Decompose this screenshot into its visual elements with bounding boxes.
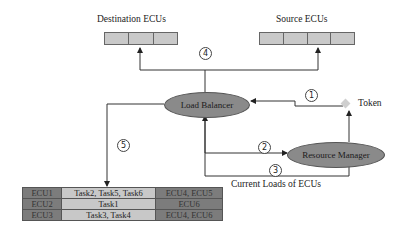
- table-row: ECU3 Task3, Task4 ECU4, ECU6: [23, 210, 223, 221]
- ecu-cell: ECU1: [23, 188, 62, 199]
- table-row: ECU2 Task1 ECU6: [23, 199, 223, 210]
- target-ecus-cell: ECU4, ECU6: [156, 210, 223, 221]
- queue-slot: [154, 33, 177, 44]
- queue-slot: [284, 33, 308, 44]
- token-label: Token: [358, 98, 382, 108]
- ecu-cell: ECU2: [23, 199, 62, 210]
- ecu-cell: ECU3: [23, 210, 62, 221]
- load-balancer-node: Load Balancer: [164, 92, 250, 118]
- step-2-badge: 2: [258, 141, 271, 154]
- queue-slot: [105, 33, 129, 44]
- destination-ecus-queue: [104, 32, 178, 45]
- target-ecus-cell: ECU4, ECU5: [156, 188, 223, 199]
- queue-slot: [331, 33, 354, 44]
- step-1-badge: 1: [305, 89, 318, 102]
- queue-slot: [308, 33, 332, 44]
- step-4-badge: 4: [199, 47, 212, 60]
- queue-slot: [129, 33, 153, 44]
- tasks-cell: Task3, Task4: [62, 210, 156, 221]
- queue-slot: [260, 33, 284, 44]
- load-balancer-label: Load Balancer: [181, 100, 234, 110]
- destination-ecus-label: Destination ECUs: [97, 14, 166, 24]
- tasks-cell: Task2, Task5, Task6: [62, 188, 156, 199]
- source-ecus-label: Source ECUs: [276, 14, 327, 24]
- resource-manager-label: Resource Manager: [302, 150, 370, 160]
- table-row: ECU1 Task2, Task5, Task6 ECU4, ECU5: [23, 188, 223, 199]
- current-loads-label: Current Loads of ECUs: [231, 179, 321, 189]
- step-5-badge: 5: [117, 139, 130, 152]
- resource-manager-node: Resource Manager: [287, 142, 385, 168]
- target-ecus-cell: ECU6: [156, 199, 223, 210]
- source-ecus-queue: [259, 32, 355, 45]
- ecu-task-table: ECU1 Task2, Task5, Task6 ECU4, ECU5 ECU2…: [22, 187, 223, 221]
- step-3-badge: 3: [269, 164, 282, 177]
- tasks-cell: Task1: [62, 199, 156, 210]
